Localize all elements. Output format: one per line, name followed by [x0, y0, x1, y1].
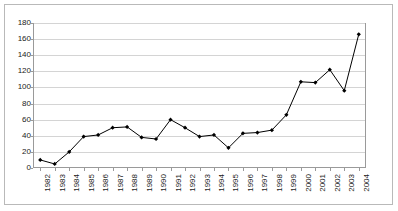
x-axis-tick-label-2004: 2004 — [363, 174, 371, 192]
gridline-80 — [34, 104, 365, 105]
y-axis-tick-mark — [30, 152, 33, 153]
x-axis-tick-label-1996: 1996 — [247, 174, 255, 192]
y-axis-tick-label: 180 — [3, 19, 31, 27]
x-axis-tick-mark — [228, 168, 229, 171]
x-axis-tick-label-2003: 2003 — [348, 174, 356, 192]
x-axis-tick-label-1995: 1995 — [232, 174, 240, 192]
x-axis-tick-label-1989: 1989 — [146, 174, 154, 192]
y-axis-tick-mark — [30, 23, 33, 24]
x-axis-tick-label-1997: 1997 — [261, 174, 269, 192]
x-axis-tick-mark — [200, 168, 201, 171]
x-axis-tick-mark — [243, 168, 244, 171]
y-axis-tick-mark — [30, 136, 33, 137]
x-axis-tick-mark — [286, 168, 287, 171]
x-axis-tick-mark — [69, 168, 70, 171]
x-axis-tick-mark — [185, 168, 186, 171]
plot-area-frame — [33, 23, 366, 168]
x-axis-tick-label-1991: 1991 — [175, 174, 183, 192]
y-axis-tick-label: 160 — [3, 35, 31, 43]
gridline-140 — [34, 55, 365, 56]
y-axis-tick-label: 20 — [3, 148, 31, 156]
y-axis-tick-label: 60 — [3, 116, 31, 124]
x-axis-tick-mark — [55, 168, 56, 171]
x-axis-tick-mark — [330, 168, 331, 171]
gridline-60 — [34, 120, 365, 121]
x-axis-tick-mark — [156, 168, 157, 171]
gridline-180 — [34, 23, 365, 24]
gridline-160 — [34, 39, 365, 40]
y-axis-tick-mark — [30, 87, 33, 88]
x-axis-tick-label-1998: 1998 — [276, 174, 284, 192]
x-axis-tick-mark — [142, 168, 143, 171]
y-axis-tick-mark — [30, 39, 33, 40]
x-axis-tick-mark — [301, 168, 302, 171]
x-axis-tick-label-2001: 2001 — [319, 174, 327, 192]
y-axis-tick-label: 40 — [3, 132, 31, 140]
x-axis-tick-mark — [98, 168, 99, 171]
y-axis-tick-mark — [30, 168, 33, 169]
x-axis-tick-mark — [171, 168, 172, 171]
x-axis-tick-label-1984: 1984 — [73, 174, 81, 192]
x-axis-tick-label-2000: 2000 — [305, 174, 313, 192]
y-axis-tick-mark — [30, 104, 33, 105]
x-axis-tick-label-1993: 1993 — [204, 174, 212, 192]
x-axis-tick-mark — [113, 168, 114, 171]
gridline-120 — [34, 71, 365, 72]
gridline-40 — [34, 136, 365, 137]
x-axis-tick-mark — [40, 168, 41, 171]
x-axis-tick-label-2002: 2002 — [334, 174, 342, 192]
x-axis-tick-label-1986: 1986 — [102, 174, 110, 192]
y-axis-tick-mark — [30, 71, 33, 72]
y-axis-tick-label: 80 — [3, 100, 31, 108]
x-axis-tick-label-1994: 1994 — [218, 174, 226, 192]
y-axis-tick-label: 100 — [3, 83, 31, 91]
y-axis-tick-label: 0 — [3, 164, 31, 172]
x-axis-tick-mark — [344, 168, 345, 171]
y-axis: 020406080100120140160180 — [0, 0, 31, 211]
y-axis-tick-label: 140 — [3, 51, 31, 59]
x-axis-tick-mark — [315, 168, 316, 171]
x-axis-tick-label-1999: 1999 — [290, 174, 298, 192]
x-axis-tick-mark — [359, 168, 360, 171]
x-axis-tick-label-1982: 1982 — [44, 174, 52, 192]
x-axis-tick-mark — [272, 168, 273, 171]
x-axis-tick-label-1983: 1983 — [59, 174, 67, 192]
y-axis-tick-label: 120 — [3, 67, 31, 75]
gridline-100 — [34, 87, 365, 88]
x-axis-tick-mark — [257, 168, 258, 171]
x-axis-tick-label-1985: 1985 — [88, 174, 96, 192]
x-axis-tick-mark — [127, 168, 128, 171]
x-axis-tick-label-1990: 1990 — [160, 174, 168, 192]
x-axis-tick-label-1987: 1987 — [117, 174, 125, 192]
x-axis-tick-label-1988: 1988 — [131, 174, 139, 192]
y-axis-tick-mark — [30, 55, 33, 56]
chart-figure: 020406080100120140160180 198219831984198… — [0, 0, 398, 211]
y-axis-tick-mark — [30, 120, 33, 121]
gridline-20 — [34, 152, 365, 153]
x-axis-tick-mark — [84, 168, 85, 171]
x-axis-tick-mark — [214, 168, 215, 171]
x-axis-tick-label-1992: 1992 — [189, 174, 197, 192]
